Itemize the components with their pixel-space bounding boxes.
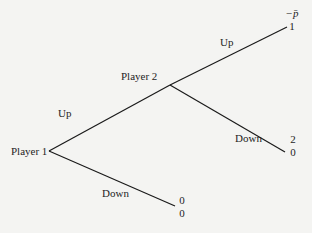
game-tree-diagram: Player 1 Player 2 Up Down Up Down −p̄ 1 … [0,0,312,233]
payoff-p2-down: 2 0 [286,133,300,159]
node-label-player2: Player 2 [121,70,157,82]
edge-label-p2-down: Down [235,132,262,144]
payoff-p2-down-player1: 2 [286,133,300,146]
edge-label-p1-down: Down [102,187,129,199]
payoff-p1-down: 0 0 [175,194,189,220]
payoff-p1-down-player1: 0 [175,194,189,207]
edge-p2-down [170,85,285,152]
tree-edges [0,0,312,233]
edge-label-p1-up: Up [58,107,71,119]
payoff-p2-up: −p̄ 1 [285,7,299,33]
payoff-p2-down-player2: 0 [286,146,300,159]
payoff-p2-up-player2: 1 [285,20,299,33]
payoff-p2-up-player1: −p̄ [285,7,299,20]
edge-label-p2-up: Up [220,36,233,48]
payoff-p1-down-player2: 0 [175,207,189,220]
node-label-player1: Player 1 [11,145,47,157]
